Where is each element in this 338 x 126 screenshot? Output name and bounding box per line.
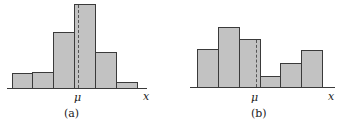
bar-b-2 xyxy=(218,27,240,87)
caption-b: (b) xyxy=(251,108,267,119)
bar-b-4 xyxy=(260,76,281,87)
x-axis-label-a: x xyxy=(143,91,149,102)
bar-b-6 xyxy=(301,50,323,87)
bar-b-3 xyxy=(239,39,261,87)
mu-label-b: μ xyxy=(251,92,258,103)
mean-line-b xyxy=(256,40,257,87)
x-axis-label-b: x xyxy=(328,91,334,102)
bar-b-5 xyxy=(280,63,302,87)
bar-a-5 xyxy=(95,52,117,88)
histogram-panel-a: μ x (a) xyxy=(0,0,169,126)
x-axis-a xyxy=(7,88,147,89)
bar-a-2 xyxy=(32,72,54,88)
bar-a-1 xyxy=(12,73,33,88)
mean-line-a xyxy=(78,5,79,88)
mu-label-a: μ xyxy=(74,92,81,103)
caption-a: (a) xyxy=(64,108,79,119)
bar-b-1 xyxy=(197,49,219,87)
x-axis-b xyxy=(190,87,335,88)
histogram-panel-b: μ x (b) xyxy=(169,0,338,126)
bar-a-3 xyxy=(53,32,75,88)
